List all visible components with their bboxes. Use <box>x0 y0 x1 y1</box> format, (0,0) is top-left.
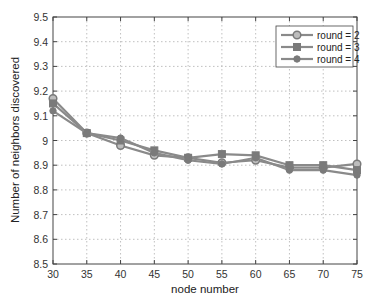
x-tick-label: 40 <box>115 268 127 280</box>
square-marker-icon <box>50 100 57 107</box>
dot-marker-icon <box>219 161 225 167</box>
y-tick-label: 9.3 <box>33 60 48 72</box>
x-tick-label: 45 <box>148 268 160 280</box>
x-tick-label: 35 <box>81 268 93 280</box>
dot-marker-icon <box>50 108 56 114</box>
x-tick-label: 65 <box>284 268 296 280</box>
y-tick-label: 8.5 <box>33 258 48 270</box>
y-tick-label: 9 <box>42 135 48 147</box>
y-tick-label: 8.8 <box>33 184 48 196</box>
dot-marker-icon <box>286 167 292 173</box>
x-axis-label: node number <box>171 283 239 295</box>
legend-label: round = 2 <box>317 30 360 41</box>
square-marker-icon <box>218 151 225 158</box>
legend: round = 2round = 3round = 4 <box>276 26 360 67</box>
dot-marker-icon <box>320 167 326 173</box>
square-marker-icon <box>294 44 301 51</box>
x-tick-label: 70 <box>317 268 329 280</box>
data-series <box>49 95 361 179</box>
dot-marker-icon <box>117 135 123 141</box>
y-tick-label: 9.1 <box>33 110 48 122</box>
x-tick-label: 30 <box>47 268 59 280</box>
legend-label: round = 3 <box>317 42 360 53</box>
y-tick-label: 9.4 <box>33 36 48 48</box>
x-tick-label: 75 <box>351 268 363 280</box>
y-tick-label: 9.2 <box>33 85 48 97</box>
dot-marker-icon <box>354 172 360 178</box>
dot-marker-icon <box>84 130 90 136</box>
series-path <box>53 99 357 168</box>
dot-marker-icon <box>185 157 191 163</box>
y-tick-label: 8.9 <box>33 159 48 171</box>
series-line <box>49 95 361 172</box>
x-tick-label: 50 <box>182 268 194 280</box>
circle-marker-icon <box>293 31 301 39</box>
dot-marker-icon <box>294 56 300 62</box>
y-tick-label: 8.6 <box>33 233 48 245</box>
x-tick-label: 55 <box>216 268 228 280</box>
line-chart: 8.58.68.78.88.999.19.29.39.49.5 30354045… <box>0 0 380 308</box>
x-tick-label: 60 <box>250 268 262 280</box>
y-tick-label: 9.5 <box>33 11 48 23</box>
y-axis-label: Number of neighbors discovered <box>9 57 21 223</box>
dot-marker-icon <box>151 150 157 156</box>
dot-marker-icon <box>252 155 258 161</box>
legend-label: round = 4 <box>317 54 360 65</box>
y-tick-label: 8.7 <box>33 209 48 221</box>
